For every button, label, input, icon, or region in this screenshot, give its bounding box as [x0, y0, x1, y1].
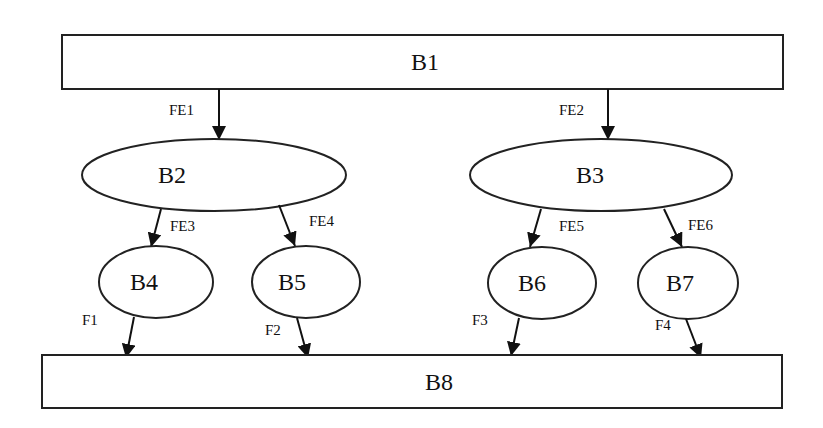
node-b1-label: B1 — [411, 49, 439, 75]
edge-fe4-label: FE4 — [309, 213, 335, 229]
node-b5-label: B5 — [278, 269, 306, 295]
edge-f4-label: F4 — [655, 317, 671, 333]
edge-f1: F1 — [82, 312, 134, 358]
edge-fe5-arrow — [530, 209, 541, 247]
node-b3-label: B3 — [576, 162, 604, 188]
edge-f1-label: F1 — [82, 312, 98, 328]
block-diagram: B1 FE1 FE2 B2 B3 FE3 FE4 FE5 FE6 — [0, 0, 823, 428]
node-b5: B5 — [252, 246, 360, 318]
edge-fe4: FE4 — [279, 205, 335, 246]
edge-fe5: FE5 — [530, 209, 584, 247]
edge-f2: F2 — [265, 318, 308, 358]
node-b6-label: B6 — [518, 270, 546, 296]
edge-fe2: FE2 — [559, 89, 608, 140]
node-b4-label: B4 — [130, 269, 158, 295]
node-b2-shape — [82, 139, 346, 211]
edge-fe3-arrow — [151, 209, 161, 247]
edge-f1-arrow — [126, 317, 134, 358]
node-b8-box — [42, 355, 782, 408]
edge-f3: F3 — [472, 312, 519, 356]
node-b2: B2 — [82, 139, 346, 211]
edge-fe6: FE6 — [664, 209, 714, 247]
edge-f3-arrow — [511, 318, 519, 356]
edge-fe2-label: FE2 — [559, 102, 584, 118]
edge-fe5-label: FE5 — [559, 218, 584, 234]
edge-f3-label: F3 — [472, 312, 488, 328]
edge-fe1: FE1 — [169, 89, 219, 140]
node-b8: B8 — [42, 355, 782, 408]
edge-fe6-label: FE6 — [688, 217, 714, 233]
node-b2-label: B2 — [158, 162, 186, 188]
node-b3: B3 — [470, 139, 732, 211]
node-b1: B1 — [62, 35, 783, 89]
edge-fe6-arrow — [664, 209, 682, 247]
edge-fe4-arrow — [279, 205, 295, 246]
node-b8-label: B8 — [425, 369, 453, 395]
edge-f4-arrow — [686, 319, 701, 358]
edge-f2-arrow — [297, 318, 308, 358]
node-b4: B4 — [99, 246, 213, 318]
edge-fe3: FE3 — [151, 209, 195, 247]
node-b7-label: B7 — [666, 270, 694, 296]
node-b7: B7 — [638, 247, 738, 319]
edge-fe3-label: FE3 — [170, 218, 195, 234]
edge-f4: F4 — [655, 317, 701, 358]
edge-fe1-label: FE1 — [169, 102, 194, 118]
node-b6: B6 — [488, 247, 596, 319]
edge-f2-label: F2 — [265, 322, 281, 338]
